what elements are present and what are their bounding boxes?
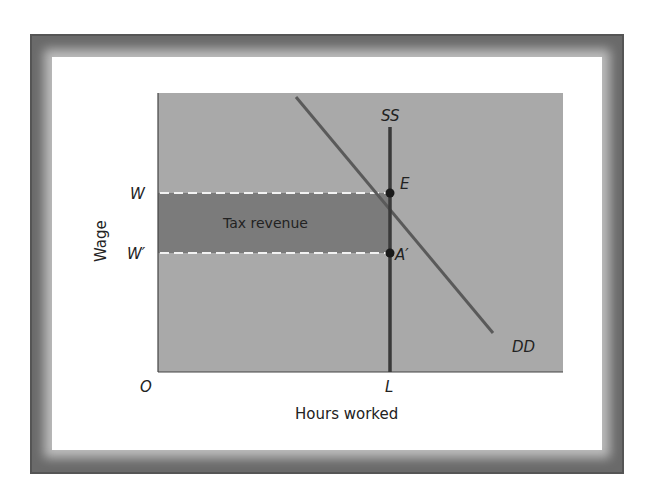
dd-label: DD <box>512 338 535 356</box>
x-axis-title: Hours worked <box>295 405 398 423</box>
y-axis-title: Wage <box>92 220 110 262</box>
l-label: L <box>385 378 393 396</box>
a-prime-label: A′ <box>394 246 409 264</box>
ss-label: SS <box>381 107 400 125</box>
origin-label: O <box>140 378 152 396</box>
point-e <box>386 189 395 198</box>
point-a-prime <box>386 249 395 258</box>
w-label: W <box>130 185 146 203</box>
w-prime-label: W′ <box>127 245 146 263</box>
e-label: E <box>400 175 410 193</box>
labor-market-tax-chart: SS E A′ DD W W′ O L Tax revenue Hours wo… <box>0 0 657 504</box>
tax-revenue-label: Tax revenue <box>222 215 308 231</box>
